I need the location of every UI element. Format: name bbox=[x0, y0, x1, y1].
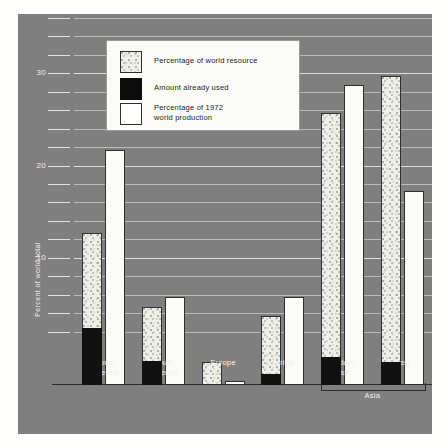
bar-used bbox=[142, 361, 162, 385]
black-swatch bbox=[120, 78, 142, 100]
y-tick bbox=[48, 221, 70, 222]
stipple-swatch bbox=[120, 51, 142, 73]
bar-used bbox=[381, 362, 401, 385]
bar-resource bbox=[321, 113, 341, 385]
bar-used bbox=[321, 357, 341, 385]
legend-item-resource: Percentage of world resource bbox=[120, 51, 258, 73]
y-tick bbox=[48, 276, 70, 277]
y-tick bbox=[48, 202, 70, 203]
bar-production bbox=[404, 191, 424, 385]
y-tick bbox=[48, 92, 70, 93]
y-tick bbox=[48, 18, 70, 19]
x-axis-label: Africa bbox=[253, 358, 313, 368]
y-axis-value: 20 bbox=[20, 161, 46, 170]
bar-group bbox=[381, 18, 424, 385]
x-axis-label: Europe bbox=[193, 358, 253, 368]
y-tick bbox=[48, 332, 70, 333]
chart-root: 102030 Percent of world total NorthAmeri… bbox=[0, 0, 448, 448]
bar-production bbox=[344, 85, 364, 385]
bar-production bbox=[284, 297, 304, 385]
y-tick bbox=[48, 166, 70, 167]
y-tick bbox=[48, 313, 70, 314]
chart-legend: Percentage of world resource Amount alre… bbox=[106, 40, 300, 131]
bar-group bbox=[321, 18, 364, 385]
legend-label-used: Amount already used bbox=[154, 78, 229, 93]
y-tick bbox=[48, 258, 70, 259]
y-tick bbox=[48, 147, 70, 148]
bar-used bbox=[261, 374, 281, 385]
y-tick bbox=[48, 295, 70, 296]
bar-resource bbox=[381, 76, 401, 385]
asia-bracket-label: Asia bbox=[321, 391, 425, 400]
y-axis-title: Percent of world total bbox=[34, 225, 41, 335]
y-tick bbox=[48, 73, 70, 74]
y-tick bbox=[48, 184, 70, 185]
y-tick bbox=[48, 36, 70, 37]
y-tick bbox=[48, 129, 70, 130]
legend-label-production: Percentage of 1972 world production bbox=[154, 103, 223, 123]
chart-panel: 102030 Percent of world total NorthAmeri… bbox=[18, 14, 432, 434]
legend-item-production: Percentage of 1972 world production bbox=[120, 103, 223, 125]
y-axis-value: 30 bbox=[20, 68, 46, 77]
bar-production bbox=[105, 150, 125, 385]
bar-used bbox=[82, 328, 102, 385]
y-tick bbox=[48, 239, 70, 240]
white-swatch bbox=[120, 103, 142, 125]
legend-label-resource: Percentage of world resource bbox=[154, 51, 258, 66]
y-tick bbox=[48, 55, 70, 56]
y-tick bbox=[48, 110, 70, 111]
legend-item-used: Amount already used bbox=[120, 78, 229, 100]
